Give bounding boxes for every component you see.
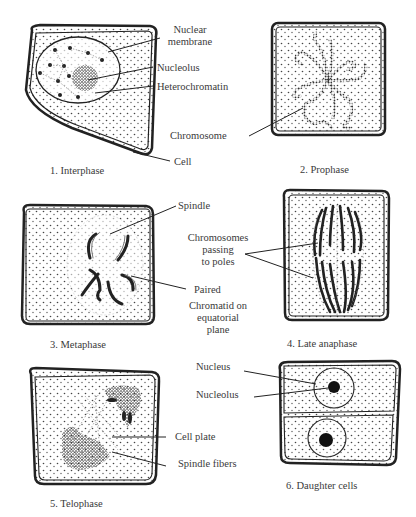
- nucleolus-top: [328, 381, 340, 393]
- metaphase-cell: [22, 205, 186, 324]
- daughter-cells: [244, 361, 400, 465]
- caption-late-anaphase: 4. Late anaphase: [287, 338, 357, 349]
- caption-telophase: 5. Telophase: [50, 498, 103, 509]
- interphase-cell: [26, 25, 170, 161]
- label-line: Nuclear: [165, 24, 215, 36]
- label-spindle-fibers: Spindle fibers: [178, 458, 237, 470]
- caption-prophase: 2. Prophase: [300, 164, 349, 175]
- label-line: to poles: [185, 256, 251, 268]
- late-anaphase-cell: [245, 190, 389, 320]
- label-spindle: Spindle: [178, 200, 210, 212]
- label-chromatid-equatorial: Chromatid on equatorial plane: [185, 300, 251, 336]
- label-nucleolus-daughter: Nucleolus: [196, 389, 239, 401]
- label-line: Chromatid on: [185, 300, 251, 312]
- label-line: plane: [185, 324, 251, 336]
- caption-interphase: 1. Interphase: [50, 165, 104, 176]
- label-paired: Paired: [194, 284, 221, 296]
- label-nuclear-membrane: Nuclear membrane: [165, 24, 215, 48]
- label-chromosomes-passing: Chromosomes passing to poles: [185, 232, 251, 268]
- telophase-cell: [30, 368, 166, 484]
- label-line: membrane: [165, 36, 215, 48]
- label-cell-plate: Cell plate: [175, 431, 216, 443]
- label-chromosome: Chromosome: [170, 130, 227, 142]
- label-line: equatorial: [185, 312, 251, 324]
- caption-metaphase: 3. Metaphase: [50, 339, 106, 350]
- label-nucleolus: Nucleolus: [157, 62, 200, 74]
- prophase-cell: [249, 23, 385, 136]
- mitosis-diagram: Nuclear membrane Nucleolus Heterochromat…: [0, 0, 416, 517]
- caption-daughter-cells: 6. Daughter cells: [286, 480, 357, 491]
- nucleolus-bottom: [319, 433, 333, 447]
- label-line: passing: [185, 244, 251, 256]
- nucleolus: [72, 65, 98, 91]
- label-cell: Cell: [174, 156, 192, 168]
- label-nucleus: Nucleus: [196, 361, 230, 373]
- label-heterochromatin: Heterochromatin: [157, 81, 228, 93]
- label-line: Chromosomes: [185, 232, 251, 244]
- spindle: [67, 215, 143, 315]
